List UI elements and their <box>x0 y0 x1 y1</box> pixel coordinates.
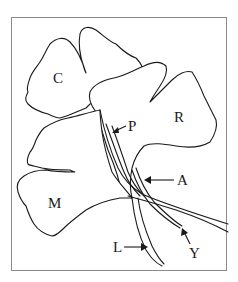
petiole-a-inner <box>136 168 182 226</box>
label-c: C <box>53 71 63 86</box>
arrow-l <box>124 243 148 251</box>
label-l: L <box>113 240 122 255</box>
label-a: A <box>177 173 188 188</box>
ginkgo-leaf-diagram: C R M P A L Y <box>0 0 238 282</box>
label-y: Y <box>189 246 200 261</box>
label-p: P <box>128 119 136 134</box>
arrow-y <box>181 228 190 244</box>
arrow-a <box>144 176 174 184</box>
label-r: R <box>174 110 184 125</box>
label-m: M <box>48 196 61 211</box>
